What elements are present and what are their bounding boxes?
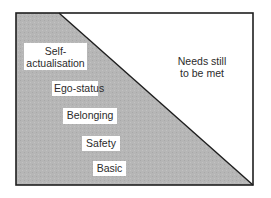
level-ego-status: Ego-status bbox=[52, 81, 98, 96]
unfilled-label-line: Needs still bbox=[172, 55, 232, 67]
unfilled-label-line: to be met bbox=[172, 67, 232, 79]
level-label: Ego-status bbox=[54, 82, 96, 94]
level-label-line: Self- bbox=[26, 45, 85, 57]
needs-still-to-be-met-label: Needs still to be met bbox=[172, 55, 232, 79]
diagram-frame bbox=[0, 0, 271, 198]
level-label: Safety bbox=[84, 137, 118, 149]
level-label-line: actualisation bbox=[26, 57, 85, 69]
level-belonging: Belonging bbox=[63, 108, 117, 124]
level-label: Basic bbox=[95, 162, 124, 174]
needs-diagram: Self- actualisation Ego-status Belonging… bbox=[0, 0, 271, 198]
level-basic: Basic bbox=[93, 161, 126, 176]
level-label: Belonging bbox=[65, 109, 115, 121]
level-self-actualisation: Self- actualisation bbox=[24, 43, 87, 70]
level-safety: Safety bbox=[82, 136, 120, 151]
